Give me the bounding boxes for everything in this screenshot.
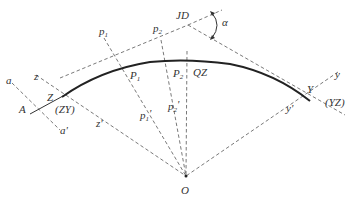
label-a-prime: a' [60, 124, 69, 136]
label-QZ: QZ [193, 66, 208, 78]
label-Z: Z [47, 91, 54, 103]
label-y-prime: y' [285, 102, 294, 114]
label-alpha: α [222, 16, 228, 28]
label-p2-top: p2 [152, 22, 163, 36]
label-p2-prime: p2' [167, 98, 180, 114]
label-a: a [6, 74, 12, 86]
label-z-prime: z' [95, 117, 103, 129]
label-P1: P1 [129, 69, 140, 83]
arrowhead-bottom [210, 35, 215, 40]
label-YZ: (YZ) [325, 96, 345, 109]
alpha-arc [212, 13, 217, 38]
curve-diagram: JD α p1 p2 P1 P2 QZ Y y (YZ) y' a z Z A … [0, 0, 350, 204]
label-P2: P2 [172, 67, 184, 81]
label-p1-top: p1 [98, 25, 108, 39]
label-O: O [181, 184, 189, 196]
label-JD: JD [176, 9, 189, 21]
radial-line-qz [186, 51, 187, 176]
label-p1-prime: p1' [139, 107, 152, 123]
circular-curve [62, 60, 310, 101]
label-y-top: y [334, 68, 340, 80]
label-z: z [33, 70, 39, 82]
radial-line-y [186, 72, 338, 176]
label-Y: Y [307, 83, 315, 95]
label-ZY: (ZY) [55, 103, 75, 116]
center-point-O [185, 175, 188, 178]
radial-line-z [36, 75, 186, 176]
tangent-line-left [60, 25, 188, 78]
label-A: A [18, 103, 26, 115]
